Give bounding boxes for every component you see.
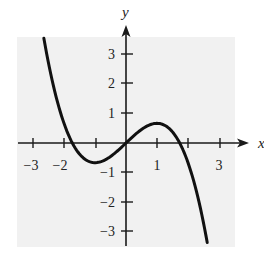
y-tick-label-2: 2 [108, 76, 115, 91]
x-tick-label-neg2: −2 [53, 158, 68, 173]
y-axis-label: y [120, 4, 129, 20]
x-tick-label-3: 3 [216, 158, 223, 173]
x-tick-label-1: 1 [154, 158, 161, 173]
x-axis-label: x [257, 135, 264, 151]
y-tick-label-1: 1 [108, 106, 115, 121]
y-tick-label-neg2: −2 [100, 195, 115, 210]
y-tick-label-neg1: −1 [100, 165, 115, 180]
y-tick-label-neg3: −3 [100, 224, 115, 239]
cubic-function-graph: −3 −2 1 3 x 3 2 1 −1 −2 −3 y [0, 0, 264, 258]
x-tick-label-neg3: −3 [24, 158, 39, 173]
y-tick-label-3: 3 [108, 47, 115, 62]
